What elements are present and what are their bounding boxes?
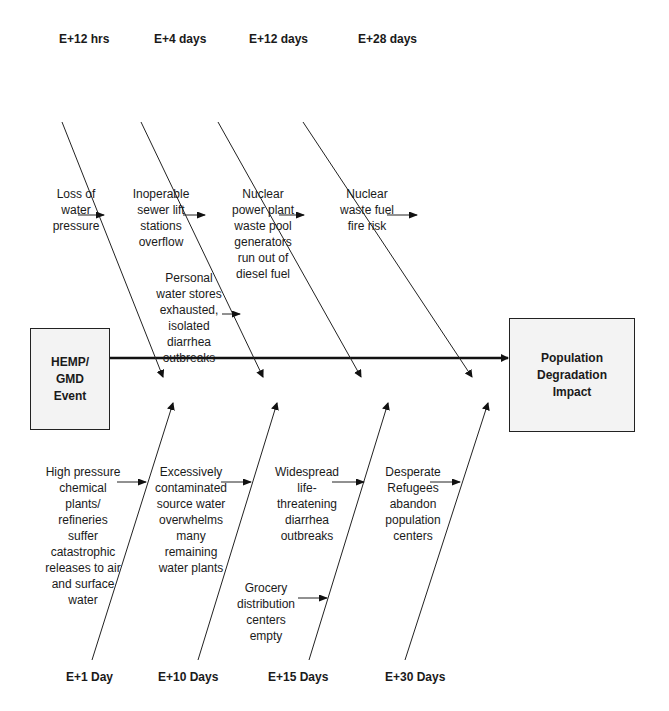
cause-chemical-plants: High pressure chemical plants/ refinerie… <box>40 464 126 608</box>
cause-grocery-distribution: Grocery distribution centers empty <box>228 580 304 644</box>
bottom-time-label-1: E+1 Day <box>66 670 113 684</box>
top-time-label-3: E+12 days <box>249 32 308 46</box>
top-time-label-2: E+4 days <box>154 32 206 46</box>
top-bone-4 <box>303 122 472 377</box>
bottom-time-label-4: E+30 Days <box>385 670 445 684</box>
source-event-box: HEMP/ GMD Event <box>30 328 110 430</box>
cause-loss-of-water-pressure: Loss of water pressure <box>44 186 108 234</box>
cause-widespread-diarrhea: Widespread life- threatening diarrhea ou… <box>271 464 343 544</box>
cause-nuclear-fuel-fire: Nuclear waste fuel fire risk <box>333 186 401 234</box>
cause-refugees: Desperate Refugees abandon population ce… <box>380 464 446 544</box>
bottom-time-label-2: E+10 Days <box>158 670 218 684</box>
cause-sewer-lift-stations: Inoperable sewer lift stations overflow <box>126 186 196 250</box>
effect-impact-box: Population Degradation Impact <box>509 318 635 432</box>
cause-contaminated-water: Excessively contaminated source water ov… <box>151 464 231 576</box>
top-time-label-1: E+12 hrs <box>59 32 109 46</box>
cause-personal-water-stores: Personal water stores exhausted, isolate… <box>152 270 226 366</box>
cause-nuclear-waste-pool: Nuclear power plant waste pool generator… <box>226 186 300 282</box>
top-time-label-4: E+28 days <box>358 32 417 46</box>
bottom-time-label-3: E+15 Days <box>268 670 328 684</box>
